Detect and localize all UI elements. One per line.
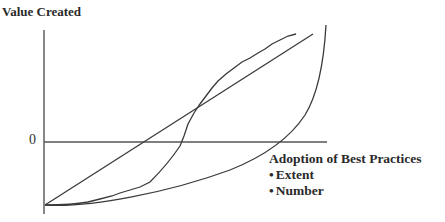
y-axis-label: Value Created — [2, 4, 81, 20]
x-axis-title: Adoption of Best Practices — [269, 151, 422, 167]
x-axis-item-label: Extent — [276, 167, 314, 182]
diagram: Value Created 0 Adoption of Best Practic… — [0, 0, 445, 222]
zero-tick-label: 0 — [29, 132, 36, 148]
x-axis-label-block: Adoption of Best Practices Extent Number — [269, 151, 422, 199]
s-curve — [45, 34, 296, 205]
x-axis-item-extent: Extent — [269, 167, 422, 183]
x-axis-item-number: Number — [269, 183, 422, 199]
x-axis-item-label: Number — [276, 183, 324, 198]
